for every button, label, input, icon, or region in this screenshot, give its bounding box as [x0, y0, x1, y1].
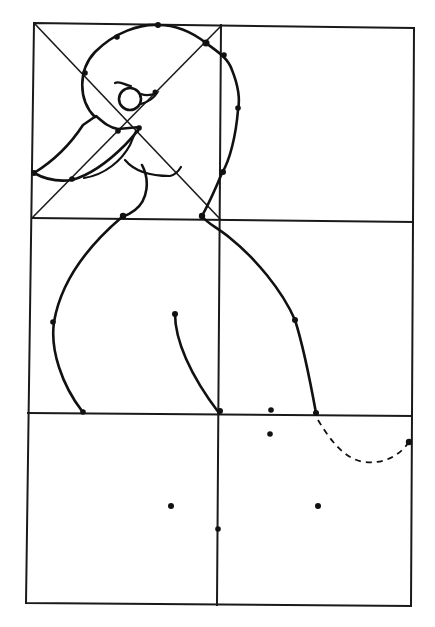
- guide-dot: [114, 34, 120, 40]
- wing-line: [175, 314, 219, 413]
- guide-dot: [406, 439, 412, 445]
- tail-guide-dashed: [318, 420, 409, 462]
- grid: [26, 23, 414, 606]
- guide-dot: [120, 213, 126, 219]
- guide-dot: [292, 317, 298, 323]
- guide-dot: [155, 22, 161, 28]
- guide-dot: [203, 40, 210, 47]
- guide-dot: [172, 311, 178, 317]
- guide-dot: [217, 408, 223, 414]
- guide-dot: [31, 170, 37, 176]
- guide-dot: [215, 526, 221, 532]
- guide-dot: [136, 125, 142, 131]
- guide-dot: [168, 503, 174, 509]
- eyebrow: [115, 82, 131, 86]
- guide-dot: [80, 409, 86, 415]
- guide-dot: [153, 90, 158, 95]
- guide-dot: [199, 213, 205, 219]
- guide-dot: [82, 70, 88, 76]
- cell-diagonals: [32, 23, 221, 220]
- duck-grid-drawing: [0, 0, 435, 627]
- guide-dots: [31, 22, 412, 532]
- guide-dot: [115, 128, 121, 134]
- head-outline: [82, 25, 239, 216]
- guide-dot: [268, 407, 274, 413]
- guide-dot: [313, 410, 319, 416]
- chest-outline: [53, 165, 147, 411]
- guide-dot: [267, 431, 273, 437]
- guide-dot: [220, 169, 226, 175]
- guide-dot: [50, 319, 56, 325]
- guide-dot: [235, 105, 241, 111]
- guide-dot: [221, 52, 227, 58]
- guide-dot: [315, 503, 321, 509]
- grid-row-divider-1: [32, 218, 413, 222]
- guide-dot: [69, 176, 75, 182]
- eye-circle: [119, 88, 141, 110]
- grid-vertical-divider: [217, 25, 221, 605]
